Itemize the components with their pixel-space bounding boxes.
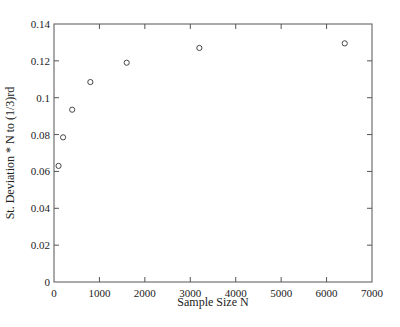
data-point-circle (88, 79, 93, 84)
x-tick-label: 5000 (270, 287, 293, 299)
plot-frame (54, 24, 372, 282)
data-point-circle (197, 45, 202, 50)
y-axis: 00.020.040.060.080.10.120.14 (31, 18, 372, 288)
y-tick-label: 0.14 (31, 18, 51, 30)
data-point-circle (124, 60, 129, 65)
data-point-circle (56, 163, 61, 168)
y-tick-label: 0.06 (31, 165, 51, 177)
data-point-circle (70, 107, 75, 112)
y-tick-label: 0 (45, 276, 51, 288)
y-tick-label: 0.04 (31, 202, 51, 214)
x-tick-label: 1000 (88, 287, 111, 299)
y-tick-label: 0.02 (31, 239, 50, 251)
data-points (56, 41, 347, 169)
x-tick-label: 2000 (134, 287, 157, 299)
x-tick-label: 7000 (361, 287, 384, 299)
y-tick-label: 0.12 (31, 55, 50, 67)
scatter-chart: 01000200030004000500060007000 00.020.040… (0, 0, 400, 327)
y-tick-label: 0.08 (31, 129, 51, 141)
x-tick-label: 6000 (316, 287, 339, 299)
data-point-circle (60, 135, 65, 140)
y-tick-label: 0.1 (36, 92, 50, 104)
x-axis: 01000200030004000500060007000 (51, 24, 383, 299)
x-tick-label: 0 (51, 287, 57, 299)
plot-border (54, 24, 372, 282)
data-point-circle (342, 41, 347, 46)
y-axis-label: St. Deviation * N to (1/3)rd (3, 87, 17, 220)
x-axis-label: Sample Size N (177, 295, 249, 309)
